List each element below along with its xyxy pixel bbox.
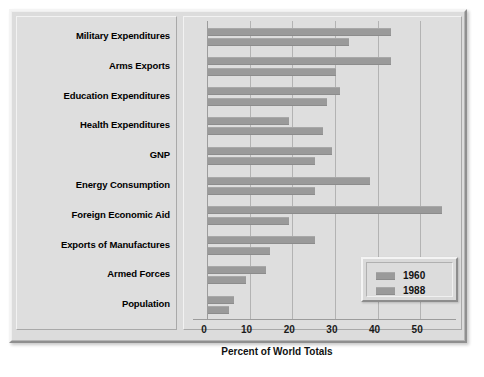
bar-1988-education-expenditures [208,98,327,106]
x-tick-label-50: 50 [412,324,423,335]
bar-1988-foreign-economic-aid [208,217,289,225]
category-label-exports-of-manufactures: Exports of Manufactures [18,239,170,250]
category-label-education-expenditures: Education Expenditures [18,90,170,101]
bar-1960-foreign-economic-aid [208,206,442,214]
bar-1960-exports-of-manufactures [208,236,315,244]
bar-1988-gnp [208,157,315,165]
category-label-energy-consumption: Energy Consumption [18,179,170,190]
bar-1960-education-expenditures [208,87,340,95]
gridline-30 [335,21,336,319]
gridline-10 [250,21,251,319]
x-axis-title-text: Percent of World Totals [221,346,332,357]
chart-legend: 19601988 [361,257,458,302]
x-tick-label-20: 20 [284,324,295,335]
gridline-0 [207,21,208,319]
legend-swatch-1988 [376,287,395,295]
legend-label-1960: 1960 [403,270,425,281]
legend-entry-1960: 1960 [376,270,425,281]
bar-1988-exports-of-manufactures [208,247,270,255]
x-tick-label-40: 40 [369,324,380,335]
x-tick-label-10: 10 [241,324,252,335]
gridline-20 [292,21,293,319]
bar-1960-gnp [208,147,332,155]
category-label-health-expenditures: Health Expenditures [18,119,170,130]
x-axis-line [193,319,456,320]
bar-1988-armed-forces [208,276,246,284]
chart-frame: Military ExpendituresArms ExportsEducati… [9,9,467,343]
bar-1988-population [208,306,229,314]
bar-1988-arms-exports [208,68,336,76]
bar-1960-armed-forces [208,266,266,274]
category-label-arms-exports: Arms Exports [18,60,170,71]
legend-inner-bevel: 19601988 [366,262,453,297]
legend-swatch-1960 [376,272,395,280]
category-label-gnp: GNP [18,149,170,160]
bar-1960-arms-exports [208,57,391,65]
x-tick-label-30: 30 [326,324,337,335]
x-tick-label-0: 0 [201,324,207,335]
bar-1960-health-expenditures [208,117,289,125]
bar-1960-population [208,296,234,304]
bar-1988-military-expenditures [208,38,349,46]
bar-1960-military-expenditures [208,28,391,36]
x-axis-title: Percent of World Totals [0,346,484,357]
category-label-panel: Military ExpendituresArms ExportsEducati… [16,16,177,330]
legend-label-1988: 1988 [403,285,425,296]
bar-1988-health-expenditures [208,127,323,135]
bar-1988-energy-consumption [208,187,315,195]
legend-entry-1988: 1988 [376,285,425,296]
category-label-armed-forces: Armed Forces [18,268,170,279]
category-label-foreign-economic-aid: Foreign Economic Aid [18,209,170,220]
bar-1960-energy-consumption [208,177,370,185]
category-label-military-expenditures: Military Expenditures [18,30,170,41]
category-label-population: Population [18,298,170,309]
